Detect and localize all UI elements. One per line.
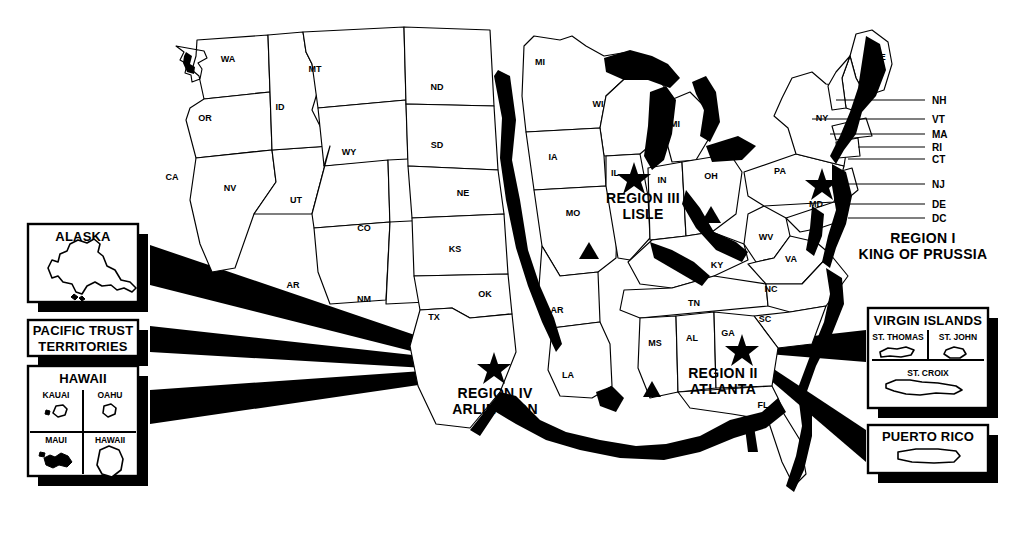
inset-puerto-rico: PUERTO RICO [868,425,998,483]
state-label-ga: GA [721,328,735,338]
state-label-ia: IA [549,152,559,162]
state-label-mn: MI [535,57,545,67]
region-3-name: REGION III [606,190,680,206]
state-label-wa: WA [221,54,236,64]
state-label-nv: NV [224,183,237,193]
state-label-oh: OH [704,171,718,181]
state-label-me: ME [872,52,886,62]
state-or [186,92,272,158]
state-label-ne: NE [457,188,470,198]
inset-pacific-trust-territories: PACIFIC TRUST TERRITORIES [28,320,148,366]
inset-hawaii-title: HAWAII [59,371,106,386]
state-label-ok: OK [478,289,492,299]
leader-label-ct: CT [932,154,945,165]
state-label-ny: NY [816,113,829,123]
state-label-fl: FL [758,400,769,410]
hawaii-island-shape [97,446,123,477]
puerto-rico-shape [898,449,960,463]
map-figure: WA OR CA NV ID MT WY UT CO AR NM TX ND S… [0,0,1020,538]
leader-label-vt: VT [932,114,945,125]
oahu-shape [103,404,116,417]
state-label-co: CO [357,223,371,233]
region-3-city: LISLE [622,206,663,222]
vi-cell-st-croix-label: ST. CROIX [907,368,949,378]
state-label-pa: PA [774,166,786,176]
state-label-ut: UT [290,195,302,205]
state-label-az: AR [287,280,300,290]
region-2-city: ATLANTA [690,381,756,397]
region-1-city: KING OF PRUSSIA [859,246,988,262]
state-label-in: IN [658,175,667,185]
hawaii-cell-kauai-label: KAUAI [43,390,70,400]
state-wy [318,100,408,166]
inset-virgin-islands: VIRGIN ISLANDS ST. THOMAS ST. JOHN ST. C… [868,308,998,418]
state-label-mi: MI [670,119,680,129]
hawaii-cell-maui-label: MAUI [45,435,67,445]
region-1-name: REGION I [890,230,955,246]
state-label-nm: NM [357,294,371,304]
state-label-va: VA [785,254,797,264]
state-label-mo: MO [566,208,581,218]
state-label-sc: SC [759,314,772,324]
state-label-ky: KY [711,260,724,270]
region-2-name: REGION II [688,365,758,381]
region-4-city: ARLINGTON [452,401,538,417]
inset-alaska: ALASKA [28,224,148,312]
state-label-ks: KS [449,244,462,254]
state-label-la: LA [562,370,574,380]
leader-label-ma: MA [932,129,948,140]
state-label-tx: TX [428,312,440,322]
leader-label-de: DE [932,199,946,210]
vi-cell-st-john-label: ST. JOHN [939,332,977,342]
state-label-ar: AR [551,305,564,315]
leader-label-dc: DC [932,213,946,224]
inset-pr-title: PUERTO RICO [882,429,974,444]
us-regions-map: WA OR CA NV ID MT WY UT CO AR NM TX ND S… [0,0,1020,538]
state-label-nd: ND [431,82,444,92]
state-label-md: MD [809,199,823,209]
state-sd [406,104,498,170]
state-label-ms: MS [648,338,662,348]
state-label-or: OR [198,113,212,123]
state-label-wv: WV [759,232,774,242]
state-label-wi: WI [593,99,604,109]
state-label-ca: CA [166,172,179,182]
leader-label-nh: NH [932,95,946,106]
region-4-name: REGION IV [457,385,532,401]
state-az [314,222,390,304]
state-label-nc: NC [765,284,778,294]
inset-hawaii: HAWAII KAUAI OAHU MAUI HAWAII [28,366,148,486]
niihau-shape [45,410,50,415]
state-label-al: AL [686,333,698,343]
state-nd [404,27,494,106]
inset-vi-title: VIRGIN ISLANDS [874,313,982,328]
inset-ptt-title2: TERRITORIES [38,339,127,354]
state-label-tn: TN [688,298,700,308]
hawaii-cell-oahu-label: OAHU [97,390,122,400]
state-label-wy: WY [342,147,357,157]
leader-label-ri: RI [932,142,942,153]
inset-ptt-title: PACIFIC TRUST [33,323,134,338]
leader-label-nj: NJ [932,179,945,190]
state-label-sd: SD [431,140,444,150]
kauai-shape [53,405,67,417]
state-ia [526,128,606,190]
hawaii-cell-hawaii-label: HAWAII [95,435,125,445]
state-label-id: ID [276,102,286,112]
state-label-il: IL [611,168,620,178]
vi-cell-st-thomas-label: ST. THOMAS [872,332,924,342]
state-label-mt: MT [309,64,322,74]
